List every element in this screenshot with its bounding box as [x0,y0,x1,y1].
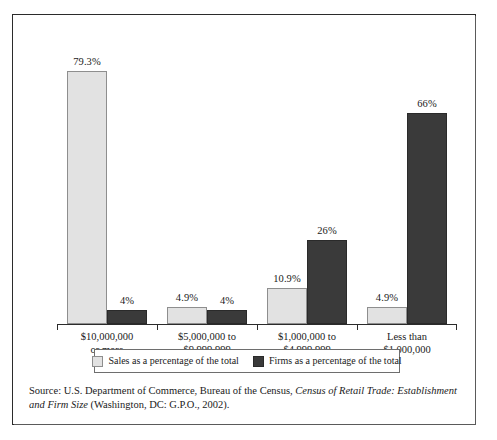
bar-value-sales-4: 4.9% [376,292,398,304]
category-label-4-line-1: Less than [357,330,457,343]
legend-item-sales: Sales as a percentage of the total [92,355,239,367]
bar-wrap-sales-4: 4.9% [367,292,407,324]
bar-group-5000000-to-9999999: 4.9% 4% [157,35,257,324]
legend-item-firms: Firms as a percentage of the total [253,355,402,367]
bar-wrap-sales-3: 10.9% [267,273,307,324]
legend-label-sales: Sales as a percentage of the total [108,355,239,367]
bar-group-less-than-1000000: 4.9% 66% [357,35,457,324]
bar-value-sales-3: 10.9% [273,273,301,285]
bar-sales-4 [367,307,407,324]
bar-value-firms-4: 66% [417,98,437,110]
category-label-1-line-1: $10,000,000 [57,330,157,343]
light-swatch-icon [92,356,103,367]
category-label-2-line-1: $5,000,000 to [157,330,257,343]
plot-area: 79.3% 4% 4.9% 4% [57,35,457,325]
bar-sales-2 [167,307,207,324]
bar-wrap-firms-4: 66% [407,98,447,324]
source-prefix: Source: U.S. Department of Commerce, Bur… [29,385,295,396]
bar-value-firms-1: 4% [120,295,134,307]
source-suffix: (Washington, DC: G.P.O., 2002). [88,399,230,410]
bar-value-sales-1: 79.3% [73,56,101,68]
source-note: Source: U.S. Department of Commerce, Bur… [29,384,461,412]
category-label-3-line-1: $1,000,000 to [257,330,357,343]
bar-groups: 79.3% 4% 4.9% 4% [57,35,457,324]
bar-firms-2 [207,310,247,324]
bar-wrap-sales-2: 4.9% [167,292,207,324]
bar-wrap-firms-1: 4% [107,295,147,324]
legend-label-firms: Firms as a percentage of the total [269,355,402,367]
bar-sales-1 [67,71,107,324]
bar-group-10000000-or-more: 79.3% 4% [57,35,157,324]
bar-value-firms-2: 4% [220,295,234,307]
bar-firms-3 [307,240,347,324]
bar-sales-3 [267,288,307,324]
bar-value-sales-2: 4.9% [176,292,198,304]
bar-wrap-sales-1: 79.3% [67,56,107,324]
bar-wrap-firms-3: 26% [307,225,347,324]
dark-swatch-icon [253,356,264,367]
bar-wrap-firms-2: 4% [207,295,247,324]
bar-firms-1 [107,310,147,324]
figure-frame: 79.3% 4% 4.9% 4% [12,14,476,425]
bar-value-firms-3: 26% [317,225,337,237]
bar-firms-4 [407,113,447,324]
bar-group-1000000-to-4999999: 10.9% 26% [257,35,357,324]
chart-legend: Sales as a percentage of the total Firms… [94,349,400,373]
